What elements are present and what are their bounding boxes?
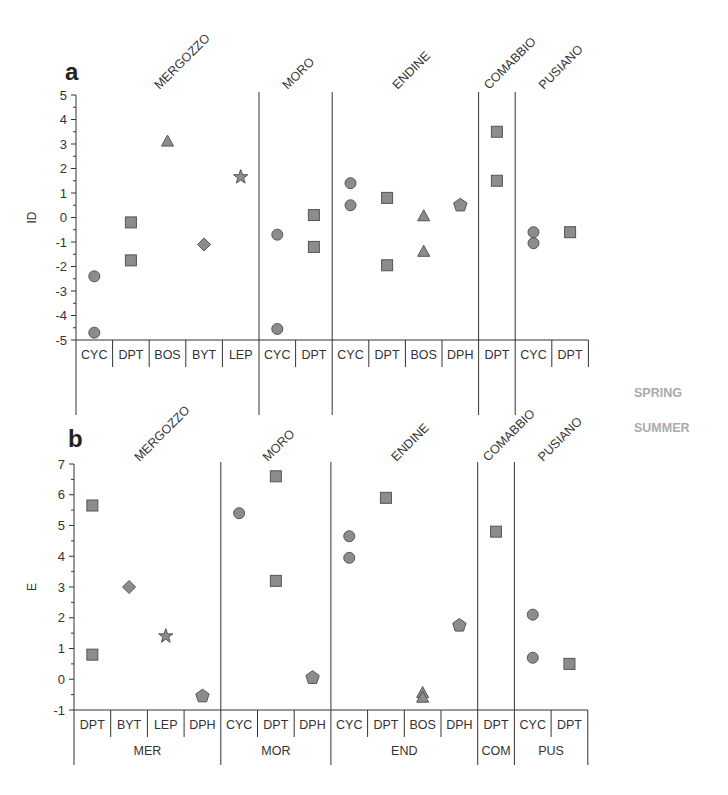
x-category-label: DPT [118, 348, 143, 362]
y-tick-label: 1 [60, 186, 67, 201]
square-marker [565, 227, 576, 238]
y-tick-label: 5 [60, 88, 67, 103]
circle-marker [527, 609, 538, 620]
square-marker [380, 492, 391, 503]
square-marker [564, 658, 575, 669]
x-category-label: CYC [81, 348, 107, 362]
x-category-label: BOS [409, 718, 435, 732]
circle-marker [344, 552, 355, 563]
square-marker [382, 260, 393, 271]
x-category-label: CYC [226, 718, 252, 732]
lake-label: MORO [280, 55, 318, 93]
y-tick-label: 3 [60, 137, 67, 152]
figure-canvas: a543210-1-2-3-4-5IDCYCDPTBOSBYTLEPCYCDPT… [0, 0, 728, 795]
pentagon-marker [196, 689, 209, 702]
x-category-label: DPT [557, 718, 582, 732]
lake-label: PUSIANO [535, 414, 585, 464]
x-category-label: LEP [154, 718, 178, 732]
square-marker [270, 575, 281, 586]
y-tick-label: 4 [58, 549, 65, 564]
group-label: END [391, 744, 417, 758]
lake-label: MERGOZZO [132, 403, 193, 464]
lake-label: PUSIANO [536, 42, 586, 92]
group-label: COM [481, 744, 510, 758]
lake-label: MORO [260, 427, 298, 465]
legend: SPRINGSUMMER [634, 386, 690, 435]
x-category-label: CYC [520, 718, 546, 732]
x-category-label: CYC [264, 348, 290, 362]
pentagon-marker [454, 198, 467, 211]
x-category-label: CYC [520, 348, 546, 362]
circle-marker [345, 200, 356, 211]
x-category-label: BYT [192, 348, 217, 362]
panel-letter: a [65, 58, 79, 85]
x-category-label: DPT [484, 348, 509, 362]
square-marker [308, 210, 319, 221]
group-label: PUS [538, 744, 564, 758]
x-category-label: DPT [80, 718, 105, 732]
x-category-label: DPT [373, 718, 398, 732]
y-tick-label: 5 [58, 518, 65, 533]
square-marker [125, 255, 136, 266]
square-marker [125, 217, 136, 228]
y-tick-label: -1 [55, 235, 67, 250]
y-tick-label: 4 [60, 112, 67, 127]
pentagon-marker [453, 618, 466, 631]
y-tick-label: -1 [53, 703, 65, 718]
x-category-label: BYT [117, 718, 142, 732]
circle-marker [528, 227, 539, 238]
y-tick-label: -2 [55, 259, 67, 274]
y-tick-label: -5 [55, 333, 67, 348]
circle-marker [528, 238, 539, 249]
y-tick-label: 2 [58, 610, 65, 625]
circle-marker [527, 652, 538, 663]
y-tick-label: 0 [58, 672, 65, 687]
group-label: MER [134, 744, 162, 758]
circle-marker [345, 178, 356, 189]
diamond-marker [123, 581, 136, 594]
x-category-label: DPH [447, 348, 473, 362]
x-category-label: LEP [229, 348, 253, 362]
x-category-label: DPT [558, 348, 583, 362]
lake-label: ENDINE [390, 49, 433, 92]
diamond-marker [198, 238, 211, 251]
square-marker [382, 192, 393, 203]
x-category-label: DPT [263, 718, 288, 732]
triangle-marker [418, 210, 430, 221]
lake-label: ENDINE [389, 421, 432, 464]
square-marker [87, 649, 98, 660]
x-category-label: CYC [336, 718, 362, 732]
star-marker [234, 170, 248, 184]
y-tick-label: 6 [58, 487, 65, 502]
y-tick-label: -4 [55, 308, 67, 323]
lake-label: COMABBIO [480, 406, 538, 464]
y-tick-label: 3 [58, 580, 65, 595]
panel-a: a543210-1-2-3-4-5IDCYCDPTBOSBYTLEPCYCDPT… [25, 31, 588, 415]
x-category-label: CYC [337, 348, 363, 362]
x-category-label: BOS [410, 348, 436, 362]
y-tick-label: 0 [60, 210, 67, 225]
panel-b: b76543210-1EDPTBYTLEPDPHCYCDPTDPHCYCDPTB… [25, 403, 588, 765]
square-marker [491, 126, 502, 137]
circle-marker [89, 271, 100, 282]
triangle-marker [418, 245, 430, 256]
square-marker [87, 500, 98, 511]
square-marker [491, 526, 502, 537]
y-tick-label: 2 [60, 161, 67, 176]
legend-spring-label: SPRING [634, 386, 682, 400]
triangle-marker [162, 135, 174, 146]
square-marker [270, 471, 281, 482]
x-category-label: DPH [446, 718, 472, 732]
y-tick-label: 1 [58, 641, 65, 656]
x-category-label: DPT [301, 348, 326, 362]
legend-summer-label: SUMMER [634, 421, 690, 435]
y-tick-label: -3 [55, 284, 67, 299]
x-category-label: DPT [375, 348, 400, 362]
x-category-label: DPT [484, 718, 509, 732]
y-axis-title: ID [25, 211, 39, 223]
y-tick-label: 7 [58, 457, 65, 472]
lake-label: MERGOZZO [152, 31, 213, 92]
group-label: MOR [261, 744, 290, 758]
star-marker [159, 629, 173, 643]
circle-marker [272, 229, 283, 240]
